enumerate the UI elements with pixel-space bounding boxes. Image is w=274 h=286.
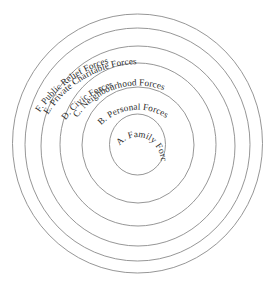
concentric-forces-diagram: F. Public Relief Forces E. Private Chari… — [0, 0, 274, 286]
ring-f-public-relief — [13, 14, 263, 273]
rings — [13, 14, 263, 273]
